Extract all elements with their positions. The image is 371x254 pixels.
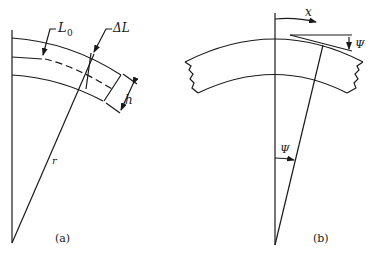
beam-top-arc-b <box>185 39 363 62</box>
beam-bottom-arc-b <box>198 75 347 94</box>
h-extension-bottom <box>106 103 120 113</box>
l0-leader <box>43 29 56 55</box>
label-h: h <box>125 93 133 107</box>
tangent-line <box>290 35 352 51</box>
delta-l-leader <box>94 29 112 52</box>
diagram-canvas: L 0 ΔL h r (a) x Ψ Ψ (b) <box>0 0 371 254</box>
label-l0-subscript: 0 <box>67 28 73 38</box>
caption-b: (b) <box>313 232 329 245</box>
h-extension-top <box>123 74 137 84</box>
beam-end-cap <box>104 75 121 101</box>
panel-b <box>185 13 363 245</box>
beam-top-arc <box>12 38 121 75</box>
beam-bottom-arc <box>12 75 103 101</box>
label-psi-top: Ψ <box>355 38 365 51</box>
label-l0: L <box>57 20 67 35</box>
beam-broken-end-left <box>185 62 198 93</box>
beam-broken-end-right <box>347 62 363 93</box>
radius-line <box>12 54 94 243</box>
label-delta-l: ΔL <box>112 21 130 35</box>
psi-arc-center <box>275 158 294 160</box>
neutral-axis-solid <box>12 57 42 59</box>
label-r: r <box>52 155 58 166</box>
label-psi-center: Ψ <box>280 143 290 156</box>
panel-a <box>12 29 137 243</box>
label-x: x <box>305 5 312 19</box>
caption-a: (a) <box>55 232 70 245</box>
